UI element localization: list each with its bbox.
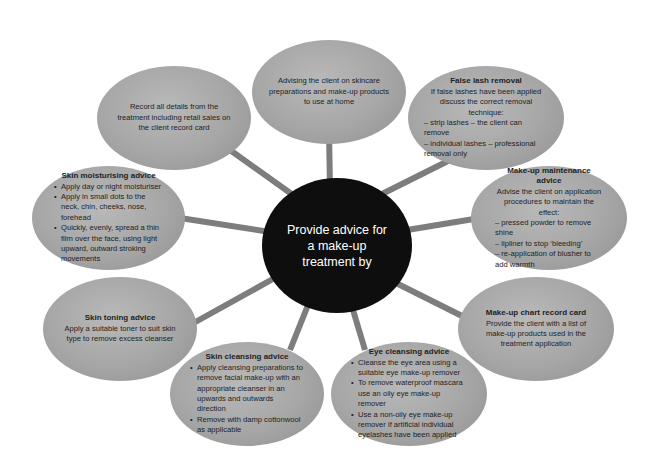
node-record-details: Record all details from the treatment in… bbox=[97, 66, 251, 170]
node-skin-cleansing: Skin cleansing advice Apply cleansing pr… bbox=[170, 342, 324, 446]
node-body: Advising the client on skincare preparat… bbox=[266, 76, 392, 107]
node-dash-item: – pressed powder to remove shine bbox=[495, 218, 603, 239]
node-make-up-maintenance: Make-up maintenance advice Advise the cl… bbox=[471, 166, 627, 270]
node-bullet-item: Apply day or night moisturiser bbox=[54, 182, 163, 192]
node-title: Make-up maintenance advice bbox=[495, 166, 603, 187]
node-title: Skin moisturising advice bbox=[61, 171, 155, 181]
node-title: Skin cleansing advice bbox=[205, 352, 288, 362]
center-node: Provide advice for a make-up treatment b… bbox=[262, 178, 412, 313]
node-dash-item: – re-application of blusher to add warmt… bbox=[495, 249, 603, 270]
node-title: Eye cleansing advice bbox=[369, 347, 450, 357]
node-dash-item: – lipliner to stop ‘bleeding’ bbox=[495, 239, 603, 249]
connector-skin-toning bbox=[190, 275, 280, 325]
node-bullet-item: Apply in small dots to the neck, chin, c… bbox=[54, 192, 163, 223]
node-body: Advise the client on application procedu… bbox=[495, 187, 603, 218]
connector-chart bbox=[390, 280, 470, 320]
node-body: Apply a suitable toner to suit skin type… bbox=[57, 324, 183, 345]
node-bullet-item: Quickly, evenly, spread a thin film over… bbox=[54, 223, 163, 265]
connector-moisturising bbox=[180, 218, 270, 232]
node-skin-toning: Skin toning advice Apply a suitable tone… bbox=[43, 277, 197, 381]
node-skin-moisturising: Skin moisturising advice Apply day or ni… bbox=[32, 166, 185, 270]
node-bullet-item: Use a non-oily eye make-up remover if ar… bbox=[351, 410, 467, 441]
node-title: False lash removal bbox=[450, 76, 522, 86]
node-title: Skin toning advice bbox=[85, 313, 156, 323]
node-body: Record all details from the treatment in… bbox=[113, 102, 235, 133]
node-bullet-list: Cleanse the eye area using a suitable ey… bbox=[351, 358, 467, 441]
node-eye-cleansing: Eye cleansing advice Cleanse the eye are… bbox=[331, 342, 487, 446]
node-bullet-item: To remove waterproof mascara use an oily… bbox=[351, 378, 467, 409]
node-false-lash-removal: False lash removal If false lashes have … bbox=[408, 66, 564, 170]
node-title: Make-up chart record card bbox=[486, 308, 586, 318]
node-body: Provide the client with a list of make-u… bbox=[476, 319, 596, 350]
node-advising-skincare: Advising the client on skincare preparat… bbox=[252, 40, 406, 144]
node-bullet-item: Cleanse the eye area using a suitable ey… bbox=[351, 358, 467, 379]
node-body: If false lashes have been applied discus… bbox=[424, 87, 548, 118]
node-dash-item: – strip lashes – the client can remove bbox=[424, 118, 548, 139]
center-text: Provide advice for a make-up treatment b… bbox=[282, 222, 392, 270]
node-bullet-item: Remove with damp cottonwool as applicabl… bbox=[190, 415, 304, 436]
node-make-up-chart: Make-up chart record card Provide the cl… bbox=[458, 277, 614, 381]
node-bullet-list: Apply cleansing preparations to remove f… bbox=[190, 363, 304, 436]
node-dash-item: – individual lashes – professional remov… bbox=[424, 139, 548, 160]
node-bullet-item: Apply cleansing preparations to remove f… bbox=[190, 363, 304, 415]
node-bullet-list: Apply day or night moisturiser Apply in … bbox=[54, 182, 163, 265]
